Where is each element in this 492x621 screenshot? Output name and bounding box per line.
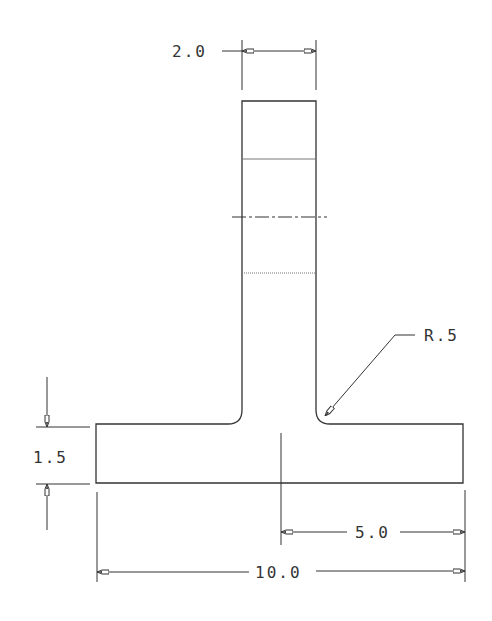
dim-total-length-label: 10.0 (255, 563, 302, 582)
stem-section-lines (242, 159, 316, 273)
dim-fillet-radius-label: R.5 (424, 326, 459, 345)
dim-flange-thickness-label: 1.5 (33, 448, 68, 467)
dim-stem-width (222, 40, 316, 90)
dim-stem-width-label: 2.0 (172, 42, 207, 61)
dim-fillet-radius (325, 335, 415, 416)
t-section-drawing: 2.0 R.5 1.5 5.0 10.0 (0, 0, 492, 621)
part-outline (96, 101, 463, 483)
extension-lines (97, 433, 465, 582)
dim-half-length-label: 5.0 (355, 523, 390, 542)
